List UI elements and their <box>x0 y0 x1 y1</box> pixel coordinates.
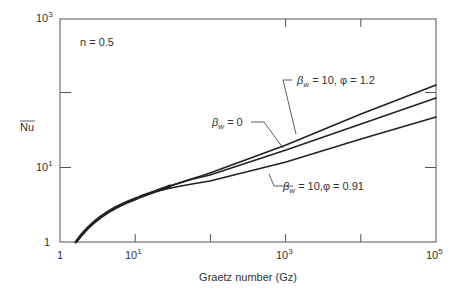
curve-common-start <box>76 186 170 242</box>
y-tick-1000: 103 <box>36 10 53 24</box>
label-beta0: βw = 0 <box>211 116 243 131</box>
label-beta10-phi0.91: βw = 10,φ = 0.91 <box>282 180 364 195</box>
leader-lines <box>251 80 296 186</box>
nusselt-graetz-chart: 103 101 1 1 101 103 105 Graetz number (G… <box>0 0 466 295</box>
x-tick-1: 1 <box>57 249 63 261</box>
x-tick-1000: 103 <box>276 247 293 261</box>
label-beta10-phi1.2: βw = 10, φ = 1.2 <box>296 74 375 89</box>
y-axis-ticks <box>60 93 436 168</box>
x-axis-ticks <box>135 19 361 242</box>
x-tick-100000: 105 <box>426 247 443 261</box>
y-tick-10: 101 <box>36 159 53 173</box>
y-axis-title: Nu <box>20 121 34 133</box>
y-tick-1: 1 <box>44 236 50 248</box>
x-axis-title: Graetz number (Gz) <box>199 271 297 283</box>
curves <box>76 85 436 242</box>
n-annotation: n = 0.5 <box>80 36 114 48</box>
x-tick-10: 101 <box>125 247 142 261</box>
curve-beta10-phi1.2 <box>170 85 436 186</box>
